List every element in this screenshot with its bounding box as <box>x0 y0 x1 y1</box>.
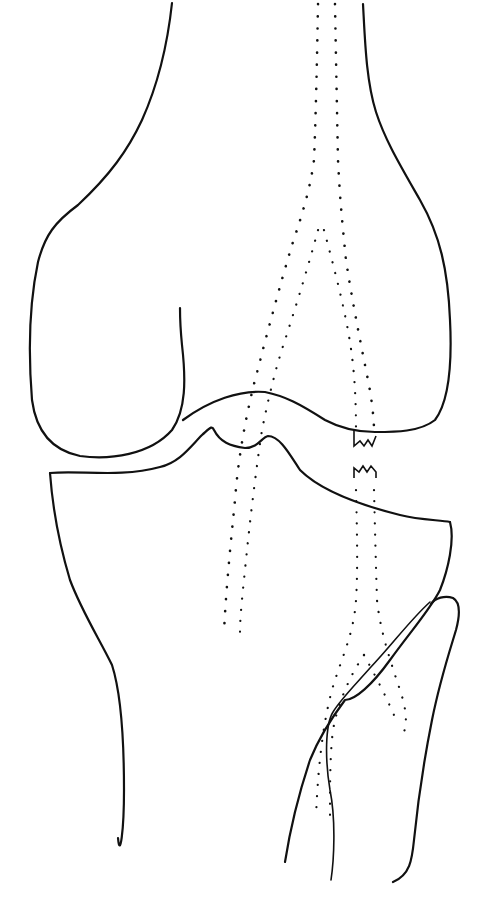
tibia <box>50 428 452 880</box>
knee-diagram <box>0 0 485 898</box>
fibula <box>393 597 459 882</box>
knee-illustration <box>0 0 485 898</box>
ligament-tear <box>354 430 376 478</box>
femur <box>30 3 451 457</box>
ligament-bands <box>224 4 406 818</box>
